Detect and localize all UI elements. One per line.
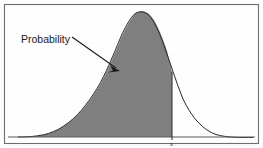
shaded-probability-area	[20, 11, 172, 137]
probability-annotation-label: Probability	[21, 33, 71, 45]
distribution-chart-svg: Probability x	[0, 0, 263, 148]
probability-distribution-figure: Probability x	[0, 0, 263, 148]
probability-annotation-arrow-line	[72, 37, 116, 68]
